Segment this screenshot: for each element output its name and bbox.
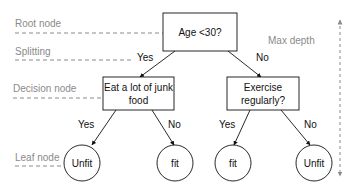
leaf-node-4: Unfit: [296, 145, 332, 181]
decision-right-line2: regularly?: [241, 95, 285, 106]
leaf-node-1: Unfit: [64, 145, 100, 181]
edge-label-right-yes: Yes: [219, 119, 235, 130]
edge-label-left-no: No: [168, 119, 181, 130]
annotation-decision-node: Decision node: [13, 83, 103, 98]
edge-label-root-yes: Yes: [137, 52, 153, 63]
leaf-node-3: fit: [215, 145, 251, 181]
decision-node-label: Decision node: [13, 83, 77, 94]
decision-node-left: Eat a lot of junk food: [103, 77, 174, 110]
edge-label-right-no: No: [304, 119, 317, 130]
leaf-node-2: fit: [157, 145, 193, 181]
edge-right-to-leaf3: [234, 110, 250, 145]
root-node-label: Root node: [15, 18, 62, 29]
splitting-label: Splitting: [15, 46, 51, 57]
max-depth-label: Max depth: [268, 35, 315, 46]
decision-left-line1: Eat a lot of junk: [104, 82, 174, 93]
leaf-2-text: fit: [171, 158, 179, 169]
leaf-1-text: Unfit: [72, 158, 93, 169]
annotation-leaf-node: Leaf node: [15, 152, 63, 166]
decision-right-line1: Exercise: [244, 82, 283, 93]
annotation-root-node: Root node: [15, 18, 163, 33]
decision-tree-diagram: Root node Splitting Decision node Leaf n…: [0, 0, 356, 190]
leaf-node-label: Leaf node: [15, 152, 60, 163]
edge-label-left-yes: Yes: [78, 119, 94, 130]
decision-left-line2: food: [129, 95, 148, 106]
leaf-4-text: Unfit: [304, 158, 325, 169]
decision-node-right: Exercise regularly?: [227, 77, 299, 110]
root-node: Age <30?: [163, 13, 237, 51]
edge-left-to-leaf1: [92, 110, 116, 145]
leaf-3-text: fit: [229, 158, 237, 169]
annotation-splitting: Splitting: [15, 46, 132, 60]
root-node-text: Age <30?: [178, 27, 222, 38]
edge-label-root-no: No: [256, 52, 269, 63]
